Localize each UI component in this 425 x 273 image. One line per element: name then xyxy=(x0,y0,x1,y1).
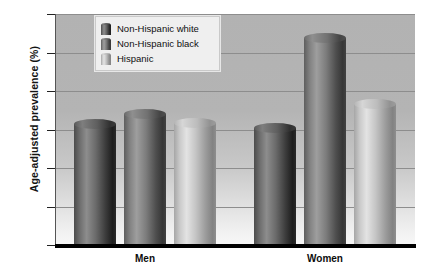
legend-swatch-icon xyxy=(101,23,111,35)
y-axis-title: Age-adjusted prevalence (%) xyxy=(28,19,40,219)
legend-swatch-icon xyxy=(101,38,111,50)
bar-body xyxy=(74,124,116,245)
bar-chart: Age-adjusted prevalence (%) Non-Hispanic… xyxy=(0,0,425,273)
legend-item: Non-Hispanic black xyxy=(101,36,214,51)
bar xyxy=(254,123,296,245)
legend-label: Non-Hispanic black xyxy=(117,38,199,49)
bar xyxy=(74,119,116,245)
legend-label: Hispanic xyxy=(117,53,153,64)
bar-body xyxy=(254,128,296,245)
bar xyxy=(304,33,346,246)
bar-body xyxy=(174,123,216,245)
y-axis-tick xyxy=(47,53,55,54)
x-axis-baseline xyxy=(55,244,416,248)
bar xyxy=(124,109,166,245)
legend-item: Hispanic xyxy=(101,51,214,66)
legend-label: Non-Hispanic white xyxy=(117,23,199,34)
x-axis-label: Men xyxy=(135,253,155,264)
gridline xyxy=(55,14,415,15)
legend-swatch-icon xyxy=(101,53,111,65)
y-axis-tick xyxy=(47,207,55,208)
y-axis-tick xyxy=(47,130,55,131)
gridline xyxy=(55,91,415,92)
bar-body xyxy=(304,38,346,246)
y-axis-tick xyxy=(47,91,55,92)
bar-body xyxy=(124,114,166,245)
legend: Non-Hispanic white Non-Hispanic black Hi… xyxy=(95,16,220,71)
bar-cap xyxy=(304,33,346,43)
y-axis-tick xyxy=(47,245,55,246)
legend-item: Non-Hispanic white xyxy=(101,21,214,36)
y-axis-tick xyxy=(47,168,55,169)
y-axis-tick xyxy=(47,14,55,15)
bar xyxy=(354,99,396,245)
x-axis-label: Women xyxy=(307,253,343,264)
y-axis-line xyxy=(55,14,56,245)
bar-body xyxy=(354,104,396,245)
bar xyxy=(174,118,216,245)
bar-cap xyxy=(254,123,296,133)
